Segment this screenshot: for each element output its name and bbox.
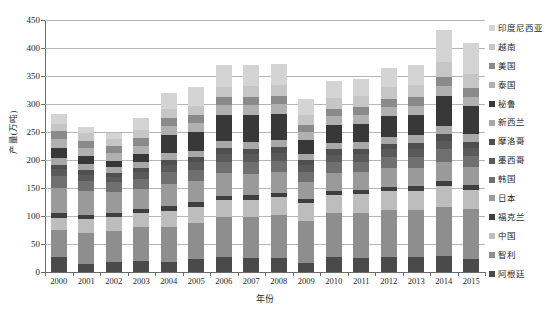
bar-stack[interactable]: [381, 68, 397, 272]
bar-segment: [463, 209, 479, 258]
y-axis-tick-label: 200: [14, 156, 40, 165]
bar-stack[interactable]: [106, 133, 122, 272]
legend-item-label: 越南: [498, 43, 516, 52]
legend-item-label: 韩国: [498, 175, 516, 184]
bar-segment: [78, 133, 94, 140]
legend-swatch-icon: [489, 271, 495, 277]
bar-segment: [271, 153, 287, 161]
bar-stack[interactable]: [298, 99, 314, 272]
bar-stack[interactable]: [326, 81, 342, 272]
legend-item[interactable]: 阿根廷: [489, 265, 560, 284]
legend-swatch-icon: [489, 63, 495, 69]
bar-segment: [326, 195, 342, 212]
legend-item[interactable]: 日本: [489, 189, 560, 208]
bar-stack[interactable]: [51, 114, 67, 272]
bar-segment: [243, 174, 259, 195]
legend-item[interactable]: 智利: [489, 246, 560, 265]
legend-swatch-icon: [489, 177, 495, 183]
bar-segment: [243, 86, 259, 97]
x-axis-tick-label: 2015: [454, 276, 488, 286]
bar-segment: [298, 203, 314, 220]
legend-item[interactable]: 泰国: [489, 76, 560, 95]
legend-item[interactable]: 摩洛哥: [489, 132, 560, 151]
legend-item[interactable]: 美国: [489, 57, 560, 76]
bar-segment: [436, 141, 452, 149]
bar-stack[interactable]: [216, 65, 232, 272]
bar-segment: [408, 149, 424, 157]
y-axis-tick-mark: [41, 48, 45, 49]
bar-segment: [161, 126, 177, 136]
bar-segment: [436, 96, 452, 127]
bar-segment: [243, 115, 259, 142]
bar-stack[interactable]: [408, 65, 424, 272]
bar-stack[interactable]: [78, 127, 94, 272]
bar-segment: [298, 99, 314, 115]
bar-segment: [78, 191, 94, 215]
bar-segment: [243, 65, 259, 86]
bar-segment: [188, 123, 204, 132]
gridline: [45, 48, 485, 49]
bar-segment: [188, 132, 204, 150]
bar-stack[interactable]: [271, 64, 287, 272]
y-axis-tick-label: 150: [14, 184, 40, 193]
bar-stack[interactable]: [133, 118, 149, 272]
bar-stack[interactable]: [353, 79, 369, 272]
bar-segment: [188, 223, 204, 259]
chart-root: 产量(万吨) 450400350300250200150100500 20002…: [0, 0, 560, 315]
bar-segment: [436, 256, 452, 272]
bar-segment: [408, 191, 424, 210]
legend-swatch-icon: [489, 82, 495, 88]
bar-stack[interactable]: [463, 43, 479, 272]
legend-item[interactable]: 韩国: [489, 170, 560, 189]
bar-segment: [463, 190, 479, 210]
bar-segment: [353, 194, 369, 212]
bar-stack[interactable]: [436, 30, 452, 272]
bar-segment: [436, 149, 452, 161]
bar-segment: [353, 96, 369, 107]
bar-segment: [381, 157, 397, 168]
bar-segment: [188, 162, 204, 169]
legend-item-label: 中国: [498, 232, 516, 241]
bar-segment: [353, 162, 369, 173]
bar-segment: [271, 114, 287, 140]
bar-stack[interactable]: [243, 65, 259, 272]
bar-segment: [436, 134, 452, 141]
bar-segment: [243, 162, 259, 174]
bar-segment: [78, 181, 94, 192]
legend-item[interactable]: 秘鲁: [489, 95, 560, 114]
bar-segment: [271, 197, 287, 215]
legend-item[interactable]: 中国: [489, 227, 560, 246]
bar-segment: [271, 96, 287, 104]
legend-item[interactable]: 印度尼西亚: [489, 19, 560, 38]
legend-swatch-icon: [489, 44, 495, 50]
bar-segment: [216, 97, 232, 105]
bar-segment: [436, 62, 452, 77]
bar-segment: [161, 135, 177, 153]
bar-segment: [381, 107, 397, 117]
legend-item[interactable]: 福克兰: [489, 208, 560, 227]
bar-segment: [326, 213, 342, 258]
bar-segment: [106, 182, 122, 192]
bar-segment: [326, 98, 342, 109]
bar-segment: [271, 64, 287, 85]
bar-segment: [188, 170, 204, 181]
legend-item[interactable]: 墨西哥: [489, 151, 560, 170]
bar-segment: [463, 167, 479, 185]
y-axis-tick-mark: [41, 160, 45, 161]
bar-segment: [188, 207, 204, 223]
legend-item[interactable]: 新西兰: [489, 113, 560, 132]
bar-segment: [298, 221, 314, 264]
bar-segment: [78, 156, 94, 164]
bar-segment: [298, 182, 314, 199]
bar-stack[interactable]: [161, 93, 177, 272]
legend-item[interactable]: 越南: [489, 38, 560, 57]
bar-segment: [408, 115, 424, 135]
bar-segment: [381, 68, 397, 87]
bar-stack[interactable]: [188, 87, 204, 272]
bar-segment: [381, 87, 397, 99]
bar-segment: [51, 169, 67, 176]
bar-segment: [216, 105, 232, 115]
bar-segment: [298, 115, 314, 125]
bar-segment: [243, 142, 259, 149]
bar-segment: [408, 168, 424, 186]
